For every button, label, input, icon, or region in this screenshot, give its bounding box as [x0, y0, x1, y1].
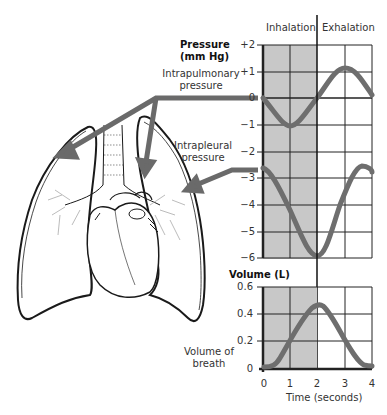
y-tick: −3 [233, 172, 255, 184]
y-tick: −2 [233, 146, 255, 158]
y-tick: 0.4 [231, 308, 253, 320]
x-tick: 4 [366, 378, 378, 390]
intrapleural-pressure-label: Intrapleural pressure [172, 140, 234, 164]
pressure-axis-title: Pressure (mm Hg) [180, 39, 228, 63]
y-tick: −5 [233, 226, 255, 238]
volume-of-breath-label: Volume of breath [184, 346, 234, 370]
y-tick: 0.2 [231, 335, 253, 347]
y-tick: −1 [233, 119, 255, 131]
y-tick: 0.6 [231, 281, 253, 293]
exhalation-label: Exhalation [322, 22, 375, 34]
x-tick: 1 [284, 378, 296, 390]
x-tick: 0 [258, 378, 270, 390]
x-tick: 2 [311, 378, 323, 390]
volume-axis-title: Volume (L) [229, 269, 290, 281]
pressure-chart [257, 45, 372, 259]
inhalation-label: Inhalation [266, 22, 316, 34]
y-tick: −4 [233, 199, 255, 211]
intrapulmonary-pressure-label: Intrapulmonary pressure [160, 68, 242, 92]
y-tick: 0 [233, 92, 255, 104]
volume-chart [257, 287, 372, 372]
y-tick: +2 [233, 39, 255, 51]
x-axis-title: Time (seconds) [286, 392, 362, 404]
y-tick: 0 [231, 363, 253, 375]
y-tick: −6 [233, 252, 255, 264]
x-tick: 3 [339, 378, 351, 390]
